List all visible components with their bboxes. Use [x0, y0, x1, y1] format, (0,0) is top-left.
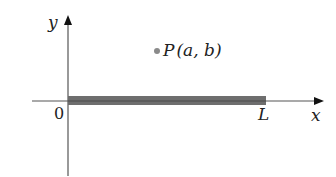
point-name: P [163, 40, 174, 60]
x-axis-arrow-icon [314, 97, 324, 105]
segment-end-label: L [258, 106, 269, 123]
coordinate-diagram: y x 0 L P(a, b) [0, 0, 336, 177]
x-axis-label: x [311, 107, 321, 124]
origin-label: 0 [54, 106, 64, 122]
point-p-dot [154, 48, 160, 54]
y-axis-arrow-icon [64, 15, 72, 25]
point-coords: (a, b) [176, 40, 221, 60]
point-label: P(a, b) [163, 42, 222, 59]
y-axis-label: y [48, 14, 58, 31]
